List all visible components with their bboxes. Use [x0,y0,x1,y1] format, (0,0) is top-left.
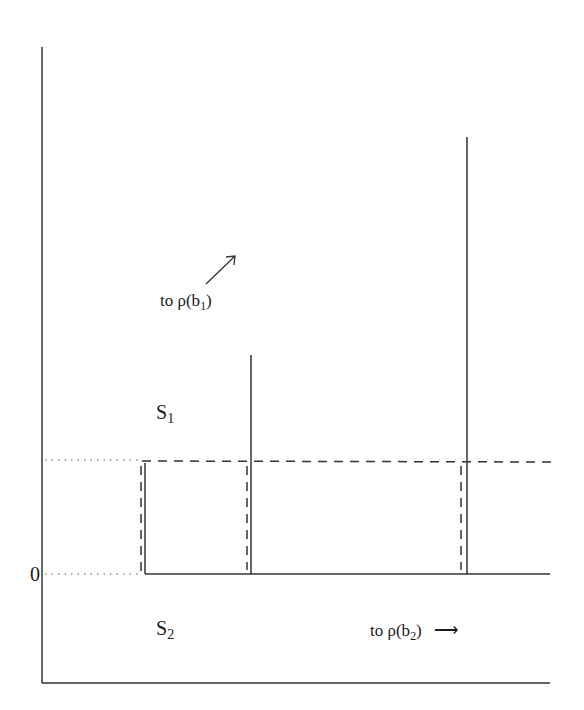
to-rho-b1-label: to ρ(b1) [160,292,212,312]
s2-label: S2 [156,618,174,642]
diagram-canvas [0,0,584,710]
s1-label: S1 [156,402,174,426]
arrow-right-icon: ⟶ [434,621,458,640]
zero-label: 0 [30,564,40,584]
arrow-up-right-icon [206,257,234,284]
to-rho-b2-label: to ρ(b2) ⟶ [370,622,458,642]
dashed-level-line [142,461,552,462]
